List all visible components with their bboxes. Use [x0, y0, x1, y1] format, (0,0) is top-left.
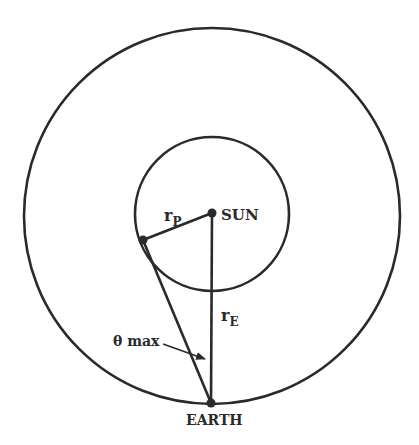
planet-radius-label: rP	[164, 206, 181, 229]
earth-radius-label: rE	[221, 306, 239, 329]
angle-arrow	[163, 344, 205, 359]
earth-radius-sub: E	[229, 315, 238, 329]
line-of-sight	[143, 240, 211, 403]
sun-label: SUN	[221, 206, 259, 224]
earth-radius-line	[211, 213, 212, 403]
planet-dot	[139, 236, 148, 245]
elongation-diagram: SUN EARTH rP rE θ max	[0, 0, 419, 445]
theta-max-label: θ max	[113, 333, 160, 349]
earth-label: EARTH	[186, 412, 243, 428]
sun-dot	[208, 209, 217, 218]
earth-dot	[207, 399, 216, 408]
planet-radius-sub: P	[172, 215, 181, 229]
